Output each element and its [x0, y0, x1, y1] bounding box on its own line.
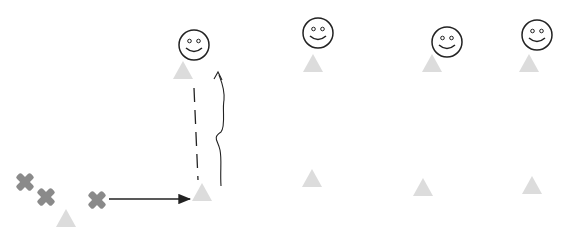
paths-layer — [109, 72, 224, 199]
cross-icon — [11, 168, 39, 196]
cone-icon — [173, 61, 193, 79]
cone-icon — [519, 54, 539, 72]
cone-icon — [522, 176, 542, 194]
cross-icon — [32, 183, 60, 211]
cone-icon — [422, 54, 442, 72]
crosses-layer — [11, 168, 111, 214]
cones-layer — [56, 54, 542, 227]
drill-diagram — [0, 0, 584, 235]
players-layer — [179, 18, 552, 60]
dashed-run-line — [194, 88, 198, 180]
smiley-player-icon — [303, 18, 333, 48]
smiley-player-icon — [432, 27, 462, 57]
curved-run-arrow — [216, 75, 224, 186]
cone-icon — [302, 169, 322, 187]
cross-icon — [83, 186, 111, 214]
arrow-head-icon — [214, 72, 222, 80]
smiley-player-icon — [522, 20, 552, 50]
cone-icon — [413, 178, 433, 196]
cone-icon — [56, 209, 76, 227]
cone-icon — [192, 183, 212, 201]
cone-icon — [303, 54, 323, 72]
smiley-player-icon — [179, 30, 209, 60]
